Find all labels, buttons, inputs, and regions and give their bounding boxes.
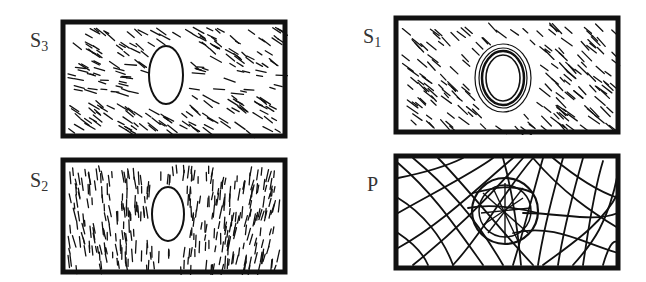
panel-label-s2: S2 <box>30 170 48 194</box>
s1-fibril-drawing <box>393 15 621 135</box>
label-main: S <box>30 29 41 51</box>
s3-fibril-drawing <box>60 19 288 139</box>
pit-ring-inner <box>486 55 520 101</box>
panel-label-p: P <box>367 174 378 194</box>
s2-fibril-drawing <box>60 157 288 275</box>
pit-ellipse <box>152 187 184 241</box>
label-main: S <box>363 25 374 47</box>
panel-s2 <box>60 157 288 275</box>
label-main: P <box>367 173 378 195</box>
panel-p <box>393 153 621 271</box>
pit-ellipse <box>149 46 183 104</box>
label-sub: 2 <box>41 179 48 194</box>
panel-label-s3: S3 <box>30 30 48 54</box>
panel-label-s1: S1 <box>363 26 381 50</box>
p-fibril-network-drawing <box>393 153 621 271</box>
label-sub: 1 <box>374 35 381 50</box>
panel-s3 <box>60 19 288 139</box>
label-main: S <box>30 169 41 191</box>
panel-s1 <box>393 15 621 135</box>
label-sub: 3 <box>41 39 48 54</box>
